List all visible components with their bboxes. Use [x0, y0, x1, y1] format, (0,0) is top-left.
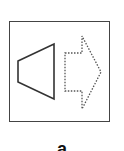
speaker-cone-icon — [18, 44, 54, 99]
figure-label: a — [0, 140, 124, 151]
diagram-svg — [9, 21, 110, 122]
arrow-right-icon — [65, 36, 101, 109]
figure-panel — [9, 21, 110, 122]
frame — [10, 22, 110, 122]
